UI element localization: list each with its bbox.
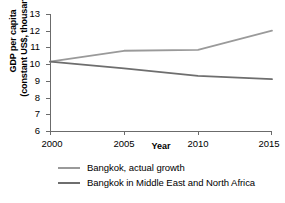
legend-swatch-actual-growth [58,167,80,169]
legend-item-actual-growth: Bangkok, actual growth [58,160,278,175]
legend-swatch-mena [58,182,80,184]
y-tick-label-13: 13 [29,7,40,20]
series-lines [50,14,272,131]
legend-label-mena: Bangkok in Middle East and North Africa [87,177,255,188]
y-tick-label-10: 10 [29,57,40,70]
series-line-mena [50,62,272,80]
chart-legend: Bangkok, actual growth Bangkok in Middle… [58,160,278,190]
legend-item-mena: Bangkok in Middle East and North Africa [58,175,278,190]
y-tick-label-7: 7 [35,107,40,120]
y-tick-label-9: 9 [35,74,40,87]
chart-figure: GDP per capita (constant US$, thousands)… [0,0,285,203]
plot-area: 13 12 11 10 9 8 7 6 2000 2005 2010 2015 [50,14,272,131]
series-line-actual-growth [50,31,272,62]
y-tick-label-12: 12 [29,24,40,37]
x-axis-title: Year [50,141,272,151]
x-tick-2000 [50,131,51,135]
legend-label-actual-growth: Bangkok, actual growth [87,162,185,173]
y-tick-label-11: 11 [30,40,40,53]
x-tick-2010 [198,131,199,135]
y-tick-label-6: 6 [35,124,40,137]
x-axis-line [50,131,272,132]
y-tick-label-8: 8 [35,91,40,104]
y-axis-title-line2: (constant US$, thousands) [19,0,30,97]
x-tick-2005 [124,131,125,135]
x-tick-2015 [271,131,272,135]
y-axis-title-line1: GDP per capita [8,10,19,73]
